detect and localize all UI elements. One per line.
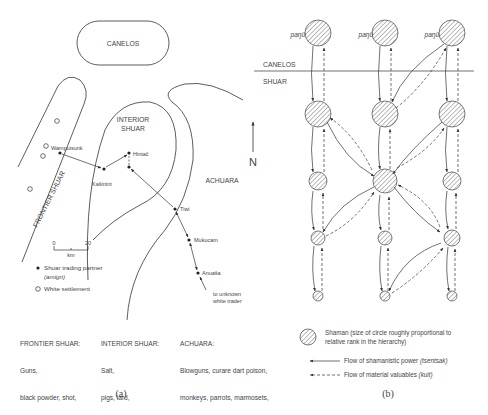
legend-shaman-icon [300,329,316,345]
frontier-shuar-region [18,77,86,262]
goods-line: pigs, lard, [101,393,159,402]
scale-unit: km [67,252,75,258]
shaman-node [372,101,398,127]
interior-shuar-label-1: INTERIOR [117,116,150,123]
trading-partner-markers [58,151,199,274]
boundary-upper-label: CANELOS [263,61,296,68]
place-kasininti: Kaŝintnt [92,181,112,187]
legend-partner-label: Shuar trading partner [44,264,102,271]
goods-line: Guns, [20,366,80,375]
goods-line: Salt, [101,366,159,375]
shaman-nodes [305,20,465,301]
place-mukucam: Mukucam [194,237,218,243]
shaman-node [439,101,465,127]
goods-interior-shuar: INTERIOR SHUAR: Salt, pigs, lard, tsants… [101,321,159,415]
legend-settlement-label: White settlement [44,285,90,292]
power-flows [312,44,450,291]
scale-bar: 0 20 km [52,240,91,258]
scale-min: 0 [52,240,55,246]
panel-b-hierarchy: CANELOS SHUAR paŋü paŋü paŋü [254,20,474,400]
shaman-node [305,101,331,127]
goods-frontier-shuar: FRONTIER SHUAR: Guns, black powder, shot… [20,321,80,415]
legend-material-label: Flow of material valuables (kuit) [344,371,433,379]
shaman-node [309,172,327,190]
goods-achuara-title: ACHUARA: [180,339,269,348]
goods-achuara: ACHUARA: Blowguns, curare dart poison, m… [180,321,269,415]
legend-power-label: Flow of shamanistic power (tsentsak) [344,357,448,365]
goods-interior-title: INTERIOR SHUAR: [101,339,159,348]
place-tiwi: Tiwi [180,206,190,212]
shaman-node [311,231,325,245]
shaman-node [313,291,323,301]
achuara-label: ACHUARA [205,177,239,184]
shaman-node [380,291,390,301]
boundary-lower-label: SHUAR [263,78,287,85]
shaman-node [373,169,397,193]
legend-settlement-icon [36,287,41,292]
to-trader-line-2: white trader [212,298,242,304]
goods-line: monkeys, parrots, marmosets, [180,393,269,402]
shaman-node [447,291,457,301]
shaman-node [305,20,331,46]
shaman-node [378,231,392,245]
shaman-node [372,20,398,46]
place-hintac: Hintač [133,151,149,157]
shaman-node [439,20,465,46]
caption-b: (b) [382,388,394,400]
shaman-node [444,230,460,246]
goods-line: Blowguns, curare dart poison, [180,366,269,375]
goods-line: black powder, shot, [20,393,80,402]
place-anuasa: Anuaŝa [202,270,222,276]
legend-partner-term: (amigri) [44,273,65,280]
north-label: N [249,156,257,168]
panu-label-1: paŋü [290,31,306,39]
legend-shaman-line-1: Shaman (size of circle roughly proportio… [325,329,452,337]
panu-label-2: paŋü [358,31,374,39]
place-wampuisunk: Wampuisunk [51,145,83,151]
interior-shuar-label-2: SHUAR [121,125,145,132]
legend-shaman-line-2: relative rank in the hierarchy) [325,338,406,346]
panu-label-3: paŋü [424,31,440,39]
goods-frontier-title: FRONTIER SHUAR: [20,339,80,348]
frontier-shuar-label: FRONTIER SHUAR [32,170,66,229]
legend-partner-icon [36,266,39,269]
scale-max: 20 [85,240,91,246]
to-trader-line-1: to unknown [213,291,241,297]
shaman-node [443,172,461,190]
canelos-label: CANELOS [107,40,140,47]
